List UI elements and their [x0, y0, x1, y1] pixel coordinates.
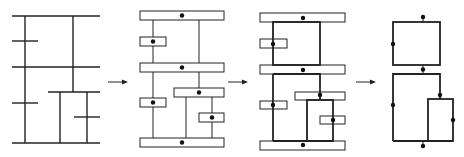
- arrow-icon: [356, 80, 376, 85]
- stage-3-connected-network: [260, 13, 345, 150]
- arrow-icon: [108, 80, 128, 85]
- arrow-icon: [228, 80, 248, 85]
- stage-1-line-network: [12, 16, 100, 143]
- stage-2-boxed-network: [140, 11, 224, 147]
- stage-4-reduced-graph: [391, 15, 455, 148]
- transformation-diagram: [0, 0, 464, 157]
